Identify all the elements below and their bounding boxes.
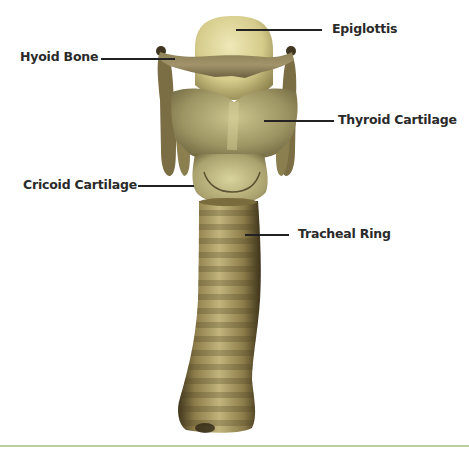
epiglottis-label: Epiglottis xyxy=(332,21,397,36)
tracheal-ring-label: Tracheal Ring xyxy=(298,226,391,241)
hyoid-bone-shape xyxy=(158,52,294,78)
footer-divider xyxy=(0,445,469,447)
cricoid-cartilage-leader-line xyxy=(138,185,194,187)
hyoid-bone-leader-line xyxy=(101,58,175,60)
thyroid-cartilage-label: Thyroid Cartilage xyxy=(338,112,457,127)
hyoid-bone-label: Hyoid Bone xyxy=(20,49,98,64)
larynx-illustration xyxy=(0,0,469,451)
cricoid-cartilage-shape xyxy=(192,154,267,204)
cricoid-cartilage-label: Cricoid Cartilage xyxy=(23,177,137,192)
larynx-diagram: Epiglottis Hyoid Bone Thyroid Cartilage … xyxy=(0,0,469,451)
thyroid-cartilage-leader-line xyxy=(264,120,334,122)
tracheal-ring-leader-line xyxy=(245,234,289,236)
epiglottis-leader-line xyxy=(236,29,322,31)
